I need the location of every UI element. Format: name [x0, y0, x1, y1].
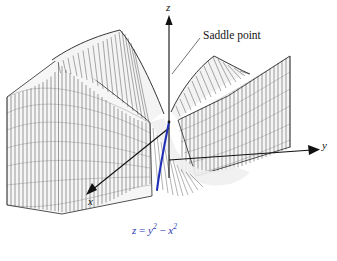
equation-z: z	[132, 224, 136, 236]
axis-label-y: y	[322, 140, 327, 151]
saddle-point-marker	[168, 121, 171, 124]
axis-label-x: x	[88, 196, 93, 207]
equation-exponent-y: 2	[153, 222, 157, 231]
equation-exponent-x: 2	[173, 222, 177, 231]
saddle-point-leader-line	[172, 38, 200, 74]
equation-equals: =	[139, 224, 145, 236]
equation-minus: −	[159, 224, 165, 236]
saddle-point-label: Saddle point	[203, 30, 261, 42]
saddle-surface-figure: z y x Saddle point z = y2 − x2	[0, 0, 337, 261]
surface-plot-svg	[0, 0, 337, 261]
equation-label: z = y2 − x2	[132, 223, 177, 236]
axis-label-z: z	[166, 2, 170, 13]
